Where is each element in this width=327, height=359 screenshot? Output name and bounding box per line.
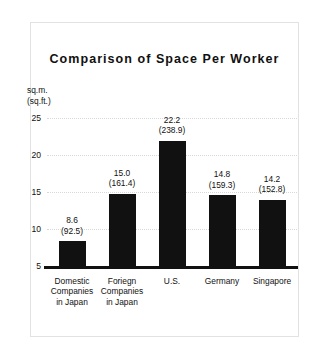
bar-value-sqm: 15.0 (92, 168, 152, 178)
bar-value-sqm: 14.2 (242, 174, 302, 184)
bar-value-sqft: (161.4) (92, 178, 152, 188)
category-label-line: Singapore (242, 276, 302, 286)
bar-value-sqm: 8.6 (42, 215, 102, 225)
category-label-line: Companies (92, 286, 152, 296)
bar[interactable] (159, 141, 186, 268)
bar-value-sqft: (92.5) (42, 226, 102, 236)
bar[interactable] (109, 194, 136, 268)
y-axis-tick-label: 15 (23, 187, 41, 197)
x-axis-category-label: Singapore (242, 276, 302, 286)
bar-value-label: 15.0(161.4) (92, 168, 152, 188)
bar-value-sqm: 22.2 (142, 115, 202, 125)
bar[interactable] (259, 200, 286, 268)
y-axis-tick-label: 5 (23, 261, 41, 271)
bar-value-label: 8.6(92.5) (42, 215, 102, 235)
bar-value-label: 14.2(152.8) (242, 174, 302, 194)
y-axis-unit-caption: sq.m. (sq.ft.) (27, 85, 51, 106)
y-axis-tick-label: 25 (23, 113, 41, 123)
bar[interactable] (59, 241, 86, 268)
y-axis-unit-primary: sq.m. (27, 85, 51, 96)
bar-value-sqft: (152.8) (242, 184, 302, 194)
y-axis-unit-secondary: (sq.ft.) (27, 96, 51, 107)
page-title: Comparison of Space Per Worker (30, 52, 299, 66)
y-axis-tick-label: 10 (23, 224, 41, 234)
x-axis-line (44, 266, 298, 269)
category-label-line: in Japan (92, 297, 152, 307)
bar[interactable] (209, 195, 236, 268)
bar-value-label: 22.2(238.9) (142, 115, 202, 135)
bar-value-sqft: (238.9) (142, 125, 202, 135)
chart-screenshot: Comparison of Space Per Worker sq.m. (sq… (0, 0, 327, 359)
y-axis-tick-label: 20 (23, 150, 41, 160)
